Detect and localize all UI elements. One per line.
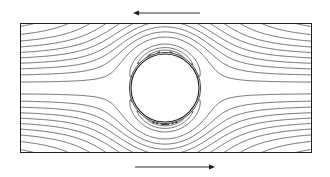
streamline-figure	[0, 0, 330, 177]
cylinder-shape	[129, 52, 201, 124]
figure-container	[0, 0, 330, 177]
